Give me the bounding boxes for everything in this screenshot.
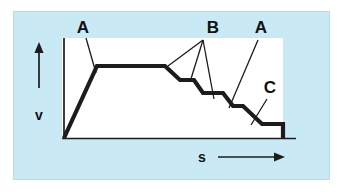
vs-diagram: A B A C v s — [0, 0, 343, 192]
callout-label-c: C — [264, 78, 276, 97]
y-axis-label: v — [35, 107, 43, 123]
callout-label-a-left: A — [77, 18, 89, 37]
figure-container: A B A C v s — [0, 0, 343, 192]
x-axis-label: s — [198, 149, 206, 165]
callout-label-a-right: A — [255, 18, 267, 37]
plot-background — [62, 38, 283, 138]
callout-label-b: B — [207, 18, 219, 37]
